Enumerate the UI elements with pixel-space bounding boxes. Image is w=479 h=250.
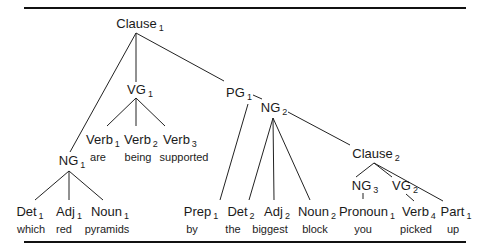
leaf-verb-1: Verb1 — [86, 133, 120, 151]
leaf-adj-2: Adj2 — [264, 205, 290, 223]
word-picked: picked — [400, 223, 432, 235]
word-biggest: biggest — [252, 223, 287, 235]
node-clause-1: Clause1 — [116, 17, 163, 35]
word-which: which — [17, 223, 45, 235]
leaf-adj-1: Adj1 — [56, 205, 82, 223]
word-being: being — [125, 151, 152, 163]
leaf-part-1: Part1 — [441, 205, 472, 223]
node-ng-2: NG2 — [261, 101, 288, 119]
word-red: red — [56, 223, 72, 235]
leaf-noun-2: Noun2 — [298, 205, 336, 223]
node-ng-3: NG3 — [352, 179, 379, 197]
node-vg-2: VG2 — [392, 179, 418, 197]
word-up: up — [447, 223, 459, 235]
word-supported: supported — [160, 151, 209, 163]
node-ng-1: NG1 — [59, 154, 86, 172]
word-you: you — [354, 223, 372, 235]
word-block: block — [302, 223, 328, 235]
word-are: are — [90, 151, 106, 163]
leaf-verb-2: Verb2 — [124, 133, 158, 151]
word-pyramids: pyramids — [85, 223, 130, 235]
word-the: the — [225, 223, 240, 235]
leaf-det-1: Det1 — [16, 205, 43, 223]
leaf-prep-1: Prep1 — [184, 205, 218, 223]
word-by: by — [186, 223, 198, 235]
node-clause-2: Clause2 — [352, 147, 399, 165]
leaf-det-2: Det2 — [227, 205, 254, 223]
node-pg-1: PG1 — [226, 86, 252, 104]
leaf-verb-3: Verb3 — [163, 133, 197, 151]
leaf-noun-1: Noun1 — [91, 205, 129, 223]
parse-tree-diagram: Clause1 VG1 PG1 NG2 NG1 Clause2 NG3 VG2 … — [0, 0, 479, 250]
node-vg-1: VG1 — [127, 83, 153, 101]
leaf-pronoun-1: Pronoun1 — [339, 205, 395, 223]
leaf-verb-4: Verb4 — [402, 205, 436, 223]
